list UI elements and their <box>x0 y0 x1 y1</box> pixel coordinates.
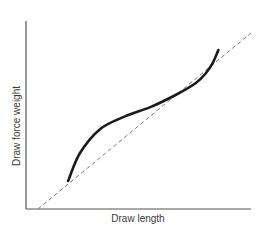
linear-reference-line <box>38 33 251 209</box>
x-axis-label: Draw length <box>111 213 164 224</box>
draw-force-chart: Draw length Draw force weight <box>0 0 264 230</box>
draw-force-curve <box>68 50 218 181</box>
y-axis-label: Draw force weight <box>11 86 22 166</box>
